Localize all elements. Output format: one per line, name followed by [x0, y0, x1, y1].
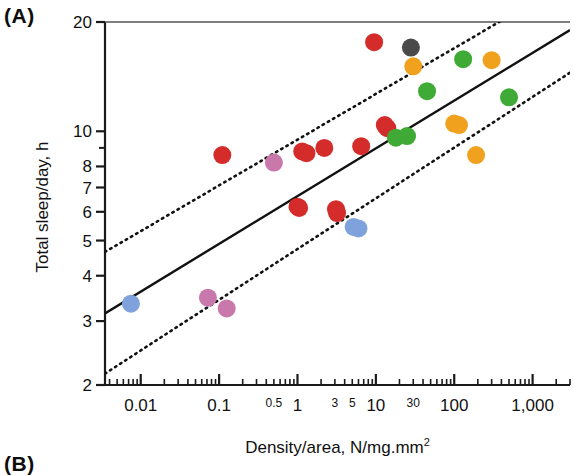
data-point: [467, 146, 485, 164]
x-tick-label: 100: [440, 396, 468, 415]
regression-line: [105, 30, 570, 313]
data-point: [122, 295, 140, 313]
data-point: [450, 116, 468, 134]
data-point: [199, 289, 217, 307]
y-tick-label: 7: [83, 179, 92, 198]
data-point: [402, 39, 420, 57]
data-point: [349, 219, 367, 237]
data-point: [265, 154, 283, 172]
x-tick-label: 1,000: [511, 396, 554, 415]
confidence-bands-layer: [105, 0, 570, 374]
data-point: [290, 199, 308, 217]
y-tick-label: 8: [83, 157, 92, 176]
data-point: [398, 127, 416, 145]
y-tick-label: 6: [83, 203, 92, 222]
data-point: [297, 144, 315, 162]
regression-line: [105, 30, 570, 313]
y-tick-label: 4: [83, 267, 92, 286]
data-point: [500, 88, 518, 106]
x-tick-label-minor: 3: [332, 396, 339, 410]
data-point: [365, 33, 383, 51]
data-point: [352, 137, 370, 155]
x-tick-label-minor: 0.5: [266, 396, 283, 410]
x-tick-label-minor: 30: [407, 396, 421, 410]
x-tick-label-minor: 5: [349, 396, 356, 410]
data-point: [418, 82, 436, 100]
tick-labels-layer: 234567810200.010.111001,0000.5351030: [73, 13, 554, 415]
x-tick-label-minor: 10: [366, 396, 385, 415]
lower-confidence-band: [105, 73, 570, 374]
y-tick-label: 10: [73, 122, 92, 141]
y-tick-label: 20: [73, 13, 92, 32]
data-point: [404, 57, 422, 75]
x-tick-label: 0.1: [207, 396, 231, 415]
data-points-layer: [122, 33, 518, 317]
y-tick-label: 2: [83, 376, 92, 395]
data-point: [213, 146, 231, 164]
x-tick-label: 1: [293, 396, 302, 415]
x-tick-label: 0.01: [124, 396, 157, 415]
y-tick-label: 5: [83, 232, 92, 251]
data-point: [315, 139, 333, 157]
data-point: [218, 299, 236, 317]
y-tick-label: 3: [83, 312, 92, 331]
data-point: [454, 50, 472, 68]
data-point: [328, 204, 346, 222]
data-point: [483, 51, 501, 69]
